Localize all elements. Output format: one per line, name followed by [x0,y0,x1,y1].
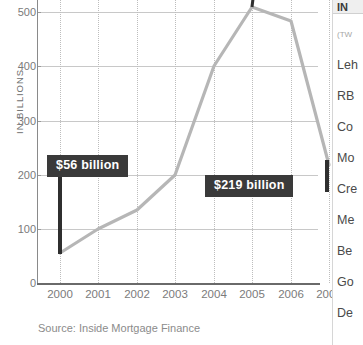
side-panel: IN (TW Leh RB Co Mo Cre Me Be Go De [332,0,363,345]
y-tick-300: 300 [2,115,36,127]
side-panel-item-8[interactable]: Go [337,275,354,289]
source-note: Source: Inside Mortgage Finance [38,322,200,334]
side-panel-item-1[interactable]: Leh [337,58,358,72]
y-tick-200: 200 [2,169,36,181]
x-axis-line [37,283,320,285]
callout-left-leader [58,172,62,254]
callout-219-billion: $219 billion [205,175,293,197]
side-panel-item-3[interactable]: Co [337,120,353,134]
side-panel-item-2[interactable]: RB [337,89,354,103]
side-panel-item-7[interactable]: Be [337,244,352,258]
y-tick-0: 0 [2,277,36,289]
callout-right-leader [325,160,329,192]
side-panel-header: IN [333,0,363,14]
side-panel-item-9[interactable]: De [337,306,353,320]
plot-area: 2000 2001 2002 2003 2004 2005 2006 2007 [37,0,318,283]
y-tick-500: 500 [2,6,36,18]
y-axis-ticks: 500 400 300 200 100 0 [0,0,36,283]
y-tick-400: 400 [2,60,36,72]
side-panel-subtitle: (TW [337,30,352,39]
side-panel-item-5[interactable]: Cre [337,182,357,196]
series-line [37,0,318,283]
line-chart: IN BILLIONS 500 400 300 200 100 0 [0,0,332,345]
y-tick-100: 100 [2,223,36,235]
callout-56-billion: $56 billion [47,155,128,177]
gridline-2007 [329,0,330,283]
side-panel-item-6[interactable]: Me [337,213,354,227]
side-panel-item-4[interactable]: Mo [337,151,354,165]
